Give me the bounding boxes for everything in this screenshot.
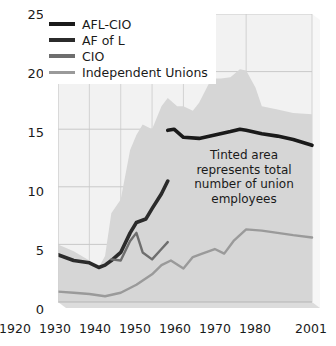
y-tick-10: 10 <box>10 185 44 198</box>
legend-label-independent-unions: Independent Unions <box>82 66 208 79</box>
x-tick-1980: 1980 <box>232 322 278 335</box>
plot-base-slab <box>58 302 320 308</box>
annotation-line-3: number of union <box>183 177 305 192</box>
legend-label-af-of-l: AF of L <box>82 34 125 47</box>
chart-legend: AFL-CIO AF of L CIO Independent Unions <box>43 12 216 84</box>
y-tick-0: 0 <box>10 303 44 316</box>
legend-item-independent-unions[interactable]: Independent Unions <box>49 65 208 79</box>
y-tick-5: 5 <box>10 244 44 257</box>
legend-item-af-of-l[interactable]: AF of L <box>49 33 208 47</box>
legend-label-cio: CIO <box>82 50 104 63</box>
plot-right-panel <box>312 14 320 308</box>
x-axis: 1920 1930 1940 1950 1960 1970 1980 2001 <box>0 322 336 346</box>
y-tick-20: 20 <box>10 67 44 80</box>
legend-label-afl-cio: AFL-CIO <box>82 18 131 31</box>
annotation-line-1: Tinted area <box>183 148 305 163</box>
x-tick-2001: 2001 <box>288 322 334 335</box>
legend-swatch-af-of-l <box>49 38 75 42</box>
legend-swatch-cio <box>49 54 75 58</box>
y-tick-15: 15 <box>10 126 44 139</box>
legend-item-cio[interactable]: CIO <box>49 49 208 63</box>
y-tick-25: 25 <box>10 8 44 21</box>
legend-item-afl-cio[interactable]: AFL-CIO <box>49 17 208 31</box>
legend-swatch-afl-cio <box>49 22 75 26</box>
legend-swatch-independent-unions <box>49 71 75 74</box>
union-membership-chart: 25 20 15 10 5 0 <box>0 0 336 346</box>
annotation-line-4: employees <box>183 192 305 207</box>
tinted-area-annotation: Tinted area represents total number of u… <box>183 148 305 206</box>
annotation-line-2: represents total <box>183 163 305 178</box>
y-axis: 25 20 15 10 5 0 <box>0 0 44 346</box>
